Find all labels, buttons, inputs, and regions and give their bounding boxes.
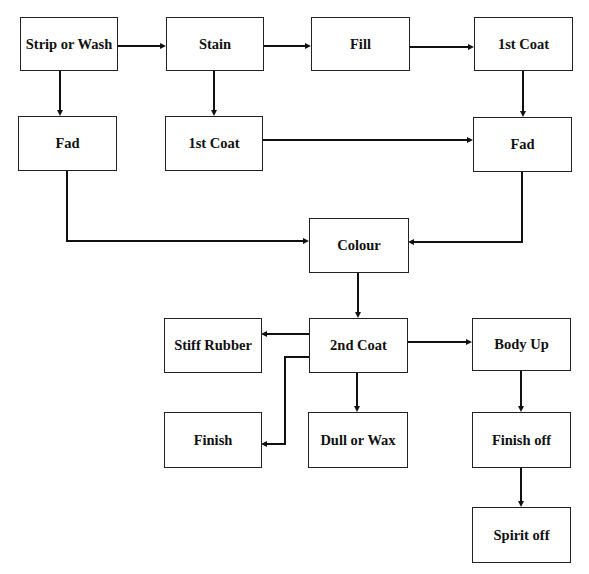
node-dull-or-wax: Dull or Wax (308, 412, 408, 468)
connector-arrows (0, 0, 589, 574)
node-label: Fad (55, 135, 79, 152)
node-finish: Finish (164, 412, 262, 468)
edge-fad-left-to-colour (67, 170, 305, 241)
node-first-coat-top: 1st Coat (474, 17, 573, 71)
node-strip-or-wash: Strip or Wash (20, 17, 118, 71)
node-first-coat-mid: 1st Coat (165, 116, 263, 171)
node-label: 2nd Coat (330, 337, 387, 354)
node-label: Spirit off (494, 527, 550, 544)
node-stain: Stain (166, 17, 264, 71)
node-finish-off: Finish off (472, 412, 571, 468)
node-label: Fill (350, 36, 371, 53)
finishing-process-flowchart: Strip or Wash Stain Fill 1st Coat Fad 1s… (0, 0, 589, 574)
node-label: Body Up (494, 336, 548, 353)
node-label: Dull or Wax (320, 432, 395, 449)
node-label: Finish off (492, 432, 551, 449)
node-fad-left: Fad (18, 116, 117, 171)
node-second-coat: 2nd Coat (309, 318, 408, 373)
node-label: 1st Coat (498, 36, 549, 53)
node-label: 1st Coat (188, 135, 239, 152)
node-colour: Colour (309, 218, 409, 273)
node-fad-right: Fad (473, 117, 572, 172)
edge-second-coat-to-finish (265, 357, 309, 444)
node-label: Colour (337, 237, 381, 254)
node-label: Stiff Rubber (174, 337, 252, 354)
node-stiff-rubber: Stiff Rubber (164, 318, 262, 373)
edge-fad-right-to-colour (412, 171, 522, 242)
node-body-up: Body Up (472, 318, 571, 371)
node-spirit-off: Spirit off (472, 507, 571, 563)
node-label: Finish (194, 432, 233, 449)
node-fill: Fill (311, 17, 410, 71)
node-label: Fad (510, 136, 534, 153)
node-label: Strip or Wash (26, 36, 113, 53)
node-label: Stain (199, 36, 231, 53)
